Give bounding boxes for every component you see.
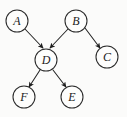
node-group: A B C D E F xyxy=(6,10,118,108)
node-a: A xyxy=(6,10,28,32)
edge-d-to-f xyxy=(29,70,40,87)
node-a-label: A xyxy=(12,14,21,28)
node-b-label: B xyxy=(72,14,80,28)
node-e: E xyxy=(61,86,83,108)
node-f-label: F xyxy=(19,90,28,104)
node-f: F xyxy=(13,86,35,108)
node-e-label: E xyxy=(67,90,76,104)
edge-d-to-e xyxy=(53,70,66,87)
figure-canvas: A B C D E F xyxy=(0,0,127,117)
edge-a-to-d xyxy=(25,29,43,48)
node-d: D xyxy=(35,49,57,71)
node-c: C xyxy=(96,46,118,68)
node-d-label: D xyxy=(41,53,51,67)
directed-graph: A B C D E F xyxy=(0,0,127,117)
node-b: B xyxy=(65,10,87,32)
edge-b-to-c xyxy=(85,28,100,48)
node-c-label: C xyxy=(103,50,112,64)
edge-b-to-d xyxy=(50,29,68,48)
